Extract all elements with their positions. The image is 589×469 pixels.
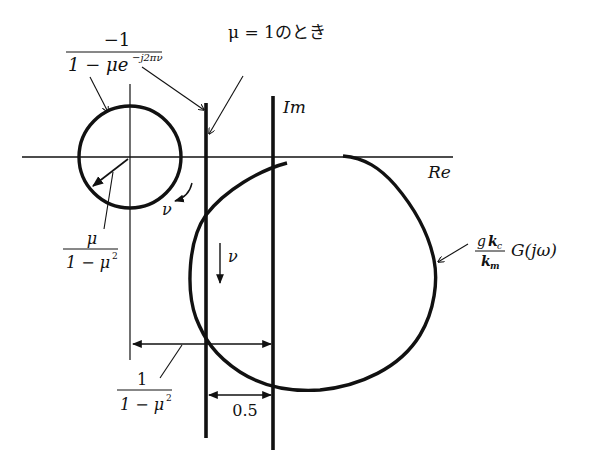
nyquist-diagram: Im Re −1 1 − μe −j2πν μ = 1のとき μ 1 − μ 2…: [0, 0, 589, 469]
center-offset-numerator: 1: [137, 370, 147, 389]
nyquist-locus: [190, 156, 436, 390]
transfer-denominator-sub: m: [490, 261, 500, 271]
transfer-leader: [438, 244, 468, 262]
mu-one-label: μ = 1のとき: [228, 22, 326, 42]
small-circle-leader: [90, 77, 108, 112]
nu-direction-small-arrow: [175, 183, 192, 201]
transfer-numerator-sub: c: [497, 241, 502, 251]
center-offset-denominator-exp: 2: [166, 393, 172, 403]
half-label: 0.5: [232, 401, 257, 420]
small-circle-denominator-exp: −j2πν: [132, 52, 163, 63]
center-offset-leader: [160, 345, 182, 378]
mu-one-leader: [209, 76, 243, 134]
transfer-numerator-g: g: [477, 233, 486, 249]
center-offset-denominator: 1 − μ: [120, 395, 164, 414]
nu-small-label: ν: [162, 200, 172, 219]
transfer-function-label: G(jω): [511, 240, 557, 260]
nu-large-label: ν: [228, 247, 238, 266]
radius-arrow: [93, 159, 128, 186]
small-circle-to-line-leader: [142, 67, 204, 110]
small-circle-denominator: 1 − μe: [68, 54, 128, 75]
radius-numerator: μ: [87, 229, 97, 248]
radius-denominator: 1 − μ: [66, 253, 110, 272]
real-axis-label: Re: [427, 162, 451, 182]
small-circle-numerator: −1: [104, 29, 131, 50]
radius-denominator-exp: 2: [112, 251, 118, 261]
imag-axis-label: Im: [282, 97, 306, 117]
